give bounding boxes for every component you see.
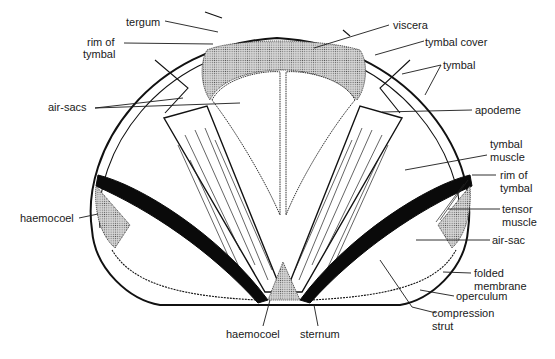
label-rim-of-tymbal-top: rim of (87, 36, 115, 48)
label-apodeme: apodeme (475, 104, 521, 116)
label-tergum: tergum (126, 16, 160, 28)
label-rim-of-tymbal-right-2: tymbal (500, 182, 532, 194)
label-viscera: viscera (393, 19, 429, 31)
label-air-sac: air-sac (492, 234, 526, 246)
label-rim-of-tymbal-right: rim of (500, 169, 528, 181)
label-tensor-muscle: tensor (502, 203, 533, 215)
label-operculum: operculum (456, 290, 507, 302)
label-haemocoel-left: haemocoel (20, 212, 74, 224)
label-rim-of-tymbal-top-2: tymbal (83, 48, 115, 60)
label-tymbal-muscle-2: muscle (490, 151, 525, 163)
label-tymbal-muscle: tymbal (490, 138, 522, 150)
label-haemocoel-bottom: haemocoel (226, 328, 280, 340)
label-air-sacs: air-sacs (48, 101, 87, 113)
label-tensor-muscle-2: muscle (502, 216, 537, 228)
label-folded-membrane: folded (474, 267, 504, 279)
tymbal-cross-section-diagram: tergum rim of tymbal air-sacs haemocoel … (0, 0, 555, 359)
label-compression-strut: compression (432, 307, 494, 319)
label-compression-strut-2: strut (432, 320, 453, 332)
label-tymbal-cover: tymbal cover (425, 36, 488, 48)
label-sternum: sternum (300, 328, 340, 340)
label-tymbal: tymbal (443, 59, 475, 71)
